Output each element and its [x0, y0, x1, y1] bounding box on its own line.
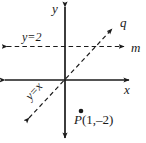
point-p-name: P	[74, 112, 82, 127]
y-axis-label: y	[52, 2, 58, 15]
line-m-label: m	[131, 41, 140, 54]
line-q	[29, 29, 112, 118]
x-axis-label: x	[124, 83, 130, 96]
point-p-coordinates: (1,–2)	[82, 112, 113, 127]
geometry-diagram: y x m q y=2 y=x P(1,–2)	[0, 0, 146, 143]
line-q-label: q	[120, 16, 127, 29]
line-m-equation-label: y=2	[22, 31, 41, 43]
point-p-label: P(1,–2)	[74, 113, 113, 126]
